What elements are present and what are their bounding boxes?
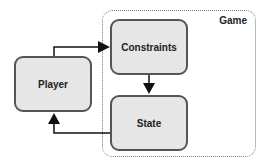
node-label: State: [137, 118, 161, 129]
edge-state-to-player: [54, 122, 110, 133]
edge-player-to-constraints: [54, 47, 100, 56]
node-constraints: Constraints: [110, 19, 188, 75]
node-label: Player: [38, 79, 68, 90]
node-player: Player: [14, 56, 92, 112]
arrowhead-icon: [98, 41, 110, 53]
arrowhead-icon: [143, 83, 155, 94]
node-state: State: [110, 95, 188, 151]
node-label: Constraints: [121, 42, 177, 53]
arrowhead-icon: [48, 113, 60, 124]
